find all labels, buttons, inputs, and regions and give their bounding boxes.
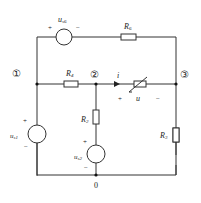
node-0-label: 0 (94, 181, 98, 190)
node-3-label: ③ (180, 69, 189, 80)
R4-label: R4 (65, 69, 74, 78)
us2-label: us2 (74, 153, 82, 161)
u-minus: − (156, 95, 160, 103)
circuit-diagram: + − us6 R6 ① ② ③ 0 R4 i + u − R2 + us2 −… (0, 0, 201, 203)
resistor-R2 (93, 110, 99, 124)
current-arrow-icon (114, 81, 120, 87)
node-1-dot (35, 82, 38, 85)
us6-plus: + (48, 24, 52, 32)
resistor-R4 (64, 81, 78, 87)
us1-minus: − (24, 143, 28, 151)
u-plus: + (118, 95, 122, 103)
us1-label: us1 (10, 132, 18, 140)
R2-label: R2 (80, 115, 89, 124)
us1-plus: + (23, 117, 27, 125)
us6-minus: − (76, 24, 80, 32)
voltage-source-us1 (28, 125, 46, 143)
resistor-R6 (121, 34, 136, 40)
current-i-label: i (117, 71, 119, 80)
us2-plus: + (83, 138, 87, 146)
voltage-source-us2 (87, 145, 105, 163)
node-0-dot (94, 173, 97, 176)
voltage-source-us6 (56, 29, 72, 45)
node-2-dot (94, 82, 97, 85)
node-3-dot (174, 82, 177, 85)
node-2-label: ② (90, 69, 99, 80)
u-label: u (136, 94, 140, 103)
node-1-label: ① (12, 68, 21, 79)
us2-minus: − (84, 164, 88, 172)
R6-label: R6 (123, 22, 132, 31)
us6-label: us6 (58, 15, 67, 24)
R3-label: R3 (159, 131, 168, 140)
